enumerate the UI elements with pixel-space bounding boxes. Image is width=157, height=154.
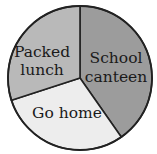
label-go-home: Go home [32,104,102,122]
label-packed-lunch-line2: lunch [20,61,64,79]
label-packed-lunch-line1: Packed [14,43,70,61]
label-school-canteen-line2: canteen [85,68,147,86]
pie-chart: Packed lunch School canteen Go home [0,0,157,154]
label-school-canteen-line1: School [90,49,143,67]
